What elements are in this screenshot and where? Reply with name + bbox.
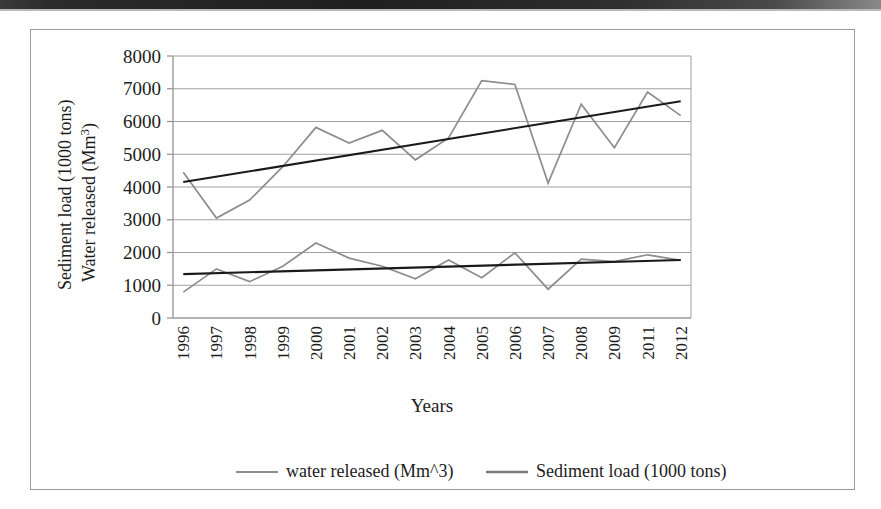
series-line-water-released: [183, 81, 680, 219]
data-series-group: [183, 81, 680, 293]
x-tick-label: 1997: [207, 326, 226, 361]
x-tick-label: 2001: [340, 326, 359, 360]
x-tick-label: 2007: [539, 326, 558, 361]
legend-label-water-released: water released (Mm^3): [286, 461, 453, 482]
y-axis-title-line2-prefix: Water released (Mm: [79, 136, 100, 282]
trendline-water-released: [183, 101, 680, 182]
y-axis-title-line2: Water released (Mm3): [77, 123, 100, 282]
y-tick-label: 0: [152, 308, 162, 329]
x-tick-label: 1996: [174, 326, 193, 360]
y-tick-label: 5000: [123, 144, 161, 165]
y-axis: 800070006000500040003000200010000: [123, 46, 691, 329]
y-tick-label: 8000: [123, 46, 161, 67]
trendline-sediment-load: [183, 260, 680, 274]
x-tick-label: 2012: [672, 326, 691, 360]
y-tick-label: 6000: [123, 111, 161, 132]
y-axis-title: Sediment load (1000 tons) Water released…: [55, 100, 100, 290]
x-tick-label: 2000: [307, 326, 326, 360]
chart-frame: Sediment load (1000 tons) Water released…: [30, 29, 855, 490]
x-tick-label: 1998: [241, 326, 260, 360]
x-axis-title: Years: [411, 395, 453, 416]
chart-legend: water released (Mm^3)Sediment load (1000…: [236, 461, 726, 482]
y-tick-label: 3000: [123, 209, 161, 230]
y-tick-label: 2000: [123, 242, 161, 263]
x-tick-label: 2008: [572, 326, 591, 360]
x-tick-label: 2011: [639, 326, 658, 359]
scan-artifact-strip: [0, 0, 881, 9]
x-tick-label: 2003: [406, 326, 425, 360]
x-tick-label: 2006: [506, 326, 525, 360]
y-axis-title-line2-suffix: ): [79, 123, 100, 129]
legend-label-sediment-load: Sediment load (1000 tons): [536, 461, 726, 482]
y-tick-label: 7000: [123, 78, 161, 99]
y-tick-label: 4000: [123, 177, 161, 198]
chart-canvas: Sediment load (1000 tons) Water released…: [31, 30, 854, 489]
x-tick-label: 2002: [373, 326, 392, 360]
y-tick-label: 1000: [123, 275, 161, 296]
x-tick-label: 1999: [274, 326, 293, 360]
x-tick-label: 2005: [473, 326, 492, 360]
y-axis-title-line1: Sediment load (1000 tons): [55, 100, 76, 290]
x-tick-label: 2009: [605, 326, 624, 360]
line-chart: Sediment load (1000 tons) Water released…: [31, 30, 854, 489]
x-axis: 1996199719981999200020012002200320042005…: [174, 326, 690, 361]
x-tick-label: 2004: [440, 326, 459, 361]
